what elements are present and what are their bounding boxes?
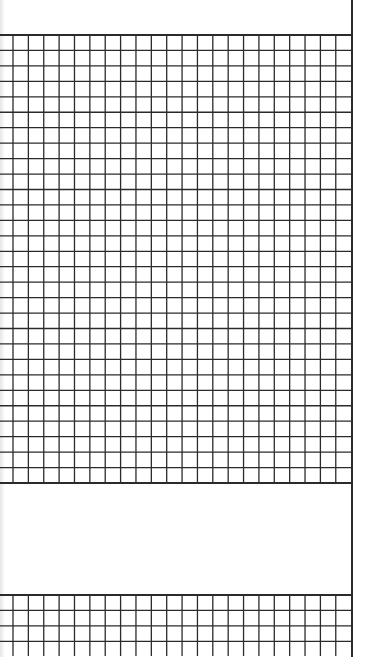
- graph-paper-sheet: graph-paper: [0, 0, 370, 657]
- right-margin-border: [351, 0, 353, 657]
- grid-lines: [0, 0, 370, 657]
